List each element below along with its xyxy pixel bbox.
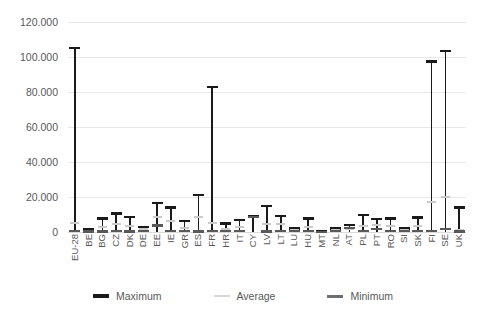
data-point-group[interactable]: [109, 22, 123, 232]
legend-item-average[interactable]: Average: [214, 290, 276, 302]
range-stem: [445, 51, 447, 232]
data-point-group[interactable]: [246, 22, 260, 232]
data-point-group[interactable]: [315, 22, 329, 232]
data-point-group[interactable]: [439, 22, 453, 232]
data-point-group[interactable]: [68, 22, 82, 232]
maximum-marker: [454, 206, 465, 208]
data-point-group[interactable]: [356, 22, 370, 232]
legend-item-maximum[interactable]: Maximum: [93, 290, 162, 302]
data-point-group[interactable]: [301, 22, 315, 232]
x-axis-tick-label: BG: [97, 234, 107, 248]
maximum-marker: [371, 218, 382, 220]
data-point-group[interactable]: [82, 22, 96, 232]
data-point-group[interactable]: [95, 22, 109, 232]
data-point-group[interactable]: [137, 22, 151, 232]
average-marker: [194, 216, 203, 218]
range-stem: [252, 217, 254, 232]
data-point-group[interactable]: [205, 22, 219, 232]
average-marker: [413, 225, 422, 227]
minimum-marker: [248, 216, 259, 218]
minimum-marker: [289, 230, 300, 232]
data-point-group[interactable]: [150, 22, 164, 232]
y-axis-tick-label: 0: [52, 227, 58, 238]
data-point-group[interactable]: [452, 22, 466, 232]
x-axis-tick-label: LT: [276, 234, 286, 244]
minimum-marker: [97, 230, 108, 232]
y-axis-tick-label: 60.000: [26, 122, 58, 133]
x-axis-tick-label: FI: [427, 234, 437, 242]
maximum-marker: [440, 50, 451, 52]
data-point-group[interactable]: [178, 22, 192, 232]
data-point-group[interactable]: [329, 22, 343, 232]
data-point-group[interactable]: [123, 22, 137, 232]
range-stem: [198, 195, 200, 232]
y-axis-tick-label: 40.000: [26, 157, 58, 168]
minimum-marker: [454, 230, 465, 232]
range-stem: [431, 61, 433, 232]
x-axis-tick-label: PT: [372, 234, 382, 246]
maximum-marker: [179, 220, 190, 222]
maximum-marker: [261, 205, 272, 207]
data-point-group[interactable]: [233, 22, 247, 232]
legend-label-average: Average: [237, 290, 276, 302]
data-point-group[interactable]: [260, 22, 274, 232]
x-axis-tick-label: GR: [180, 234, 190, 248]
average-marker: [98, 226, 107, 228]
x-axis-tick-label: SI: [399, 234, 409, 243]
data-point-group[interactable]: [397, 22, 411, 232]
x-axis-tick-label: IT: [235, 234, 245, 242]
maximum-marker: [275, 215, 286, 217]
minimum-marker: [193, 230, 204, 232]
x-axis-tick-label: BE: [84, 234, 94, 247]
chart-container: 020.00040.00060.00080.000100.000120.000 …: [0, 0, 486, 315]
minimum-marker: [316, 231, 327, 233]
minimum-marker: [303, 230, 314, 232]
maximum-marker: [234, 219, 245, 221]
average-marker: [166, 220, 175, 222]
average-marker: [125, 225, 134, 227]
y-axis-tick-label: 80.000: [26, 87, 58, 98]
average-marker: [112, 223, 121, 225]
minimum-marker: [138, 230, 149, 232]
x-axis-tick-label: DE: [138, 234, 148, 247]
data-point-group[interactable]: [411, 22, 425, 232]
data-point-group[interactable]: [425, 22, 439, 232]
maximum-marker: [193, 194, 204, 196]
x-axis-tick-label: EU-28: [70, 234, 80, 261]
x-axis-tick-label: LV: [262, 234, 272, 245]
data-point-group[interactable]: [274, 22, 288, 232]
x-axis-tick-label: ES: [193, 234, 203, 247]
legend-label-minimum: Minimum: [350, 290, 393, 302]
average-marker: [235, 226, 244, 228]
minimum-marker: [179, 230, 190, 232]
average-marker: [262, 223, 271, 225]
x-axis-tick-label: LU: [289, 234, 299, 246]
x-axis-tick-label: EE: [152, 234, 162, 247]
legend-label-maximum: Maximum: [116, 290, 162, 302]
data-point-group[interactable]: [219, 22, 233, 232]
data-point-group[interactable]: [288, 22, 302, 232]
x-axis-tick-label: CY: [248, 234, 258, 247]
data-point-group[interactable]: [384, 22, 398, 232]
x-axis-tick-label: NL: [331, 234, 341, 246]
legend-item-minimum[interactable]: Minimum: [327, 290, 393, 302]
data-point-group[interactable]: [192, 22, 206, 232]
maximum-marker: [303, 217, 314, 219]
maximum-marker: [165, 206, 176, 208]
range-stem: [458, 208, 460, 233]
maximum-marker: [207, 86, 218, 88]
y-axis-tick-label: 20.000: [26, 192, 58, 203]
minimum-marker: [83, 230, 94, 232]
minimum-marker: [152, 224, 163, 226]
maximum-marker: [111, 212, 122, 214]
data-point-group[interactable]: [370, 22, 384, 232]
x-axis-tick-label: SK: [413, 234, 423, 247]
average-marker: [70, 222, 79, 224]
data-point-group[interactable]: [164, 22, 178, 232]
minimum-marker: [207, 230, 218, 232]
minimum-marker: [220, 230, 231, 232]
data-point-group[interactable]: [342, 22, 356, 232]
minimum-marker: [275, 230, 286, 232]
minimum-marker: [385, 230, 396, 232]
x-axis-tick-label: MT: [317, 234, 327, 248]
